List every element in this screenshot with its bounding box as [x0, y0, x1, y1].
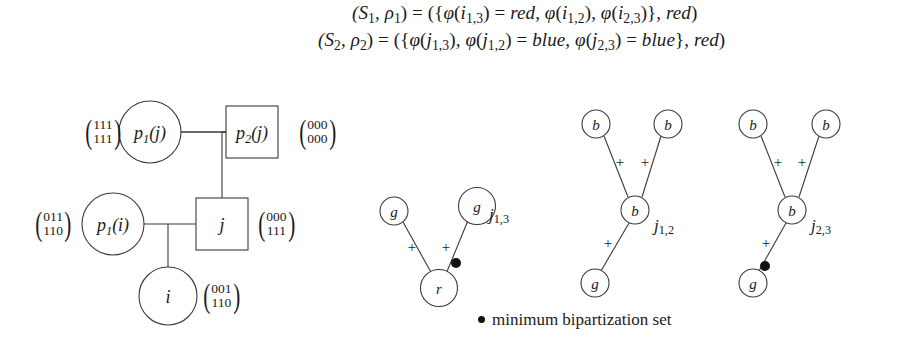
tree3-node-b-mid-label: b [788, 203, 796, 219]
tree1-node-r-label: r [436, 281, 442, 297]
tree2-node-b-mid-label: b [631, 203, 639, 219]
vector-top: 111 [93, 118, 112, 132]
vector-label-p1j: ( 111 111 ) [83, 118, 123, 147]
vector-top: 011 [43, 210, 63, 224]
vector-top: 000 [307, 118, 327, 132]
tree-j12: b b b g + + + [581, 110, 682, 297]
tree1-root-label: j1,3 [489, 205, 509, 227]
tree3-edge-sign-left: + [774, 154, 782, 170]
vector-label-i: ( 001 110 ) [201, 282, 242, 311]
pedigree-node-i-label: i [165, 287, 170, 307]
vector-label-p1i: ( 011 110 ) [33, 210, 73, 239]
pedigree-node-j-label: j [217, 215, 224, 235]
figure-root: p1(j) p2(j) j p1(i) i [0, 0, 916, 354]
formula-line-s2: (S2, ρ2) = ({φ(j1,3), φ(j1,2) = blue, φ(… [318, 29, 725, 54]
tree1-root-label-sub: 1,3 [494, 212, 509, 226]
vector-bottom: 110 [43, 224, 63, 238]
vector-bottom: 111 [267, 224, 286, 238]
tree2-root-label: j1,2 [654, 216, 674, 238]
tree1-node-g-right-label: g [473, 199, 481, 215]
pedigree-node-p1j-label: p1(j) [132, 123, 166, 146]
tree2-edge-sign-bottom: + [604, 235, 612, 251]
vector-top: 000 [266, 210, 286, 224]
tree3-root-label: j2,3 [811, 216, 831, 238]
vector-bottom: 000 [307, 132, 327, 146]
tree2-node-b-right-label: b [664, 117, 672, 133]
tree2-edge-sign-right: + [641, 154, 649, 170]
tree2-node-b-left-label: b [592, 117, 600, 133]
vector-top: 001 [211, 282, 231, 296]
tree3-node-g-bottom-label: g [749, 276, 757, 292]
legend: minimum bipartization set [478, 310, 671, 330]
tree3-edge-sign-bottom: + [762, 235, 770, 251]
tree1-node-g-left-label: g [390, 204, 398, 220]
vector-label-j: ( 000 111 ) [256, 210, 297, 239]
formula-line-s1: (S1, ρ1) = ({φ(i1,3) = red, φ(i1,2), φ(i… [352, 2, 697, 27]
tree1-edge-sign-left: + [408, 239, 416, 255]
tree1-bipartization-dot [451, 258, 461, 268]
tree3-root-label-sub: 2,3 [816, 223, 831, 237]
legend-text: minimum bipartization set [492, 310, 671, 329]
tree2-root-label-sub: 1,2 [659, 223, 674, 237]
vector-bottom: 111 [93, 132, 112, 146]
pedigree-node-p1i-label: p1(i) [95, 215, 129, 238]
tree-j23: b b b g + + + [739, 110, 840, 297]
bipartization-dot-icon [478, 316, 485, 323]
tree1-edge-sign-right: + [442, 239, 450, 255]
vector-label-p2j: ( 000 000 ) [297, 118, 338, 147]
tree3-bipartization-dot [760, 261, 770, 271]
tree-j13: g g r + + [380, 188, 496, 307]
tree3-node-b-left-label: b [749, 117, 757, 133]
tree2-node-g-bottom-label: g [591, 276, 599, 292]
tree2-edge-sign-left: + [616, 154, 624, 170]
tree3-edge-sign-right: + [798, 154, 806, 170]
tree3-node-b-right-label: b [822, 117, 830, 133]
vector-bottom: 110 [212, 296, 232, 310]
pedigree-node-p2j-label: p2(j) [234, 123, 268, 146]
